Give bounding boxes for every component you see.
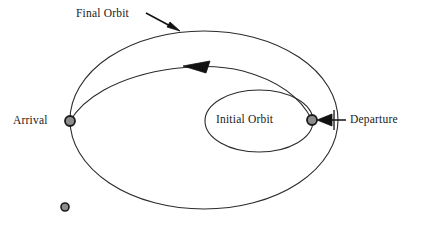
initial-orbit-label: Initial Orbit [216,114,273,126]
departure-leader-arrowhead [317,114,332,126]
arrival-label: Arrival [13,115,48,127]
arrival-point-marker [65,116,75,126]
departure-label: Departure [350,114,398,126]
transfer-direction-arrowhead [183,61,210,73]
orbital-transfer-diagram: Final Orbit Arrival Initial Orbit Depart… [0,0,428,225]
final-orbit-leader-arrowhead [167,22,180,31]
final-orbit-label: Final Orbit [76,8,129,20]
departure-point-marker [307,115,317,125]
final-orbit-ellipse [70,31,338,209]
central-body-marker [61,203,69,211]
transfer-arc-path [70,67,312,121]
